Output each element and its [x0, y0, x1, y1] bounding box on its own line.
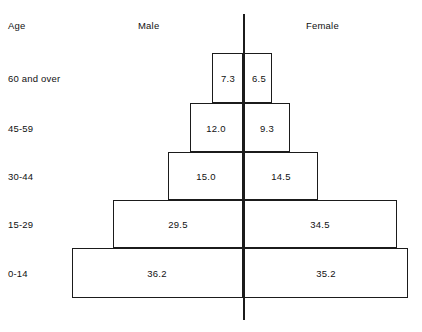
age-label-2: 30-44 — [8, 171, 33, 182]
value-label-male-3: 29.5 — [168, 219, 187, 230]
value-label-female-3: 34.5 — [310, 219, 329, 230]
value-label-male-2: 15.0 — [196, 171, 215, 182]
value-label-male-0: 7.3 — [221, 73, 235, 84]
value-label-male-4: 36.2 — [147, 268, 166, 279]
value-label-female-4: 35.2 — [316, 268, 335, 279]
value-label-female-0: 6.5 — [252, 73, 266, 84]
population-pyramid-chart: Age Male Female 60 and over45-5930-4415-… — [0, 0, 422, 332]
age-label-0: 60 and over — [8, 73, 60, 84]
age-label-1: 45-59 — [8, 122, 33, 133]
value-label-female-1: 9.3 — [260, 123, 274, 134]
value-label-male-1: 12.0 — [206, 123, 225, 134]
column-header-female: Female — [306, 20, 339, 31]
column-header-age: Age — [8, 20, 26, 31]
value-label-female-2: 14.5 — [271, 171, 290, 182]
age-label-4: 0-14 — [8, 268, 28, 279]
age-label-3: 15-29 — [8, 219, 33, 230]
column-header-male: Male — [138, 20, 159, 31]
